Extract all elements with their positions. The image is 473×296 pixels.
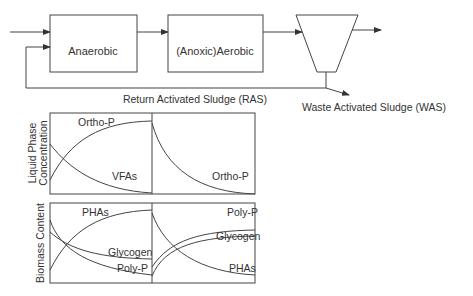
orthop-uptake-curve <box>152 123 255 194</box>
liquid-ylabel-line2: Concentration <box>37 120 49 186</box>
anaerobic-label: Anaerobic <box>68 45 118 57</box>
phas-anaerobic-curve <box>50 210 152 270</box>
polyp-aerobic-label: Poly-P <box>227 206 258 218</box>
clarifier <box>296 15 358 72</box>
anaerobic-tank <box>50 15 137 72</box>
polyp-anaerobic-label: Poly-P <box>117 262 148 274</box>
phas-anaerobic-label: PHAs <box>82 206 109 218</box>
orthop-aerobic-label: Ortho-P <box>212 170 249 182</box>
biomass-content-chart <box>50 203 255 283</box>
was-label: Waste Activated Sludge (WAS) <box>302 101 446 113</box>
orthop-anaerobic-label: Ortho-P <box>78 116 115 128</box>
ebpr-process-diagram: Anaerobic (Anoxic)Aerobic Return Activat… <box>0 0 473 296</box>
glycogen-aerobic-label: Glycogen <box>216 230 261 242</box>
glycogen-anaerobic-label: Glycogen <box>108 246 153 258</box>
vfas-label: VFAs <box>112 170 137 182</box>
ras-label: Return Activated Sludge (RAS) <box>123 93 267 105</box>
aerobic-label: (Anoxic)Aerobic <box>176 45 254 57</box>
phas-aerobic-label: PHAs <box>229 262 256 274</box>
vfa-uptake-curve <box>50 144 152 193</box>
biomass-ylabel: Biomass Content <box>34 203 46 283</box>
was-arrow <box>326 88 349 95</box>
aerobic-tank <box>168 15 263 72</box>
